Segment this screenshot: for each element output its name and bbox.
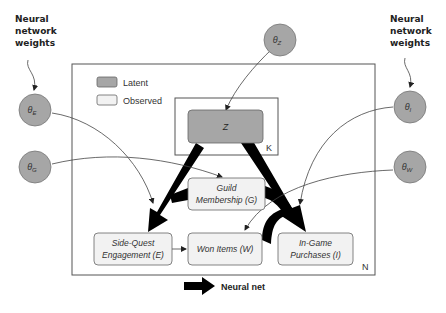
edge-thetaz-to-z — [226, 49, 272, 110]
param-theta-w: θW — [394, 151, 426, 183]
annotation-arrow-right — [405, 58, 411, 87]
annotation-left-weights: Neural network weights — [15, 14, 58, 48]
svg-text:weights: weights — [15, 38, 55, 48]
svg-text:network: network — [15, 26, 58, 36]
annotation-right-weights: Neural network weights — [390, 14, 433, 48]
svg-text:Neural: Neural — [390, 14, 424, 24]
legend-neural-net-label: Neural net — [221, 282, 265, 292]
legend-latent-swatch — [97, 77, 117, 87]
svg-text:Neural: Neural — [15, 14, 49, 24]
param-theta-i: θI — [394, 91, 426, 123]
node-in-game-label-1: In-Game — [299, 238, 332, 248]
legend-latent-label: Latent — [123, 78, 149, 88]
svg-text:weights: weights — [390, 38, 430, 48]
edge-thetag-to-g — [52, 157, 222, 177]
param-theta-e: θE — [19, 94, 51, 126]
legend-observed-label: Observed — [123, 96, 162, 106]
plate-k-label: K — [266, 143, 272, 153]
node-guild-label-1: Guild — [217, 183, 237, 193]
graphical-model-diagram: N K Latent Observed Z Guild Membership (… — [0, 0, 446, 313]
node-guild-label-2: Membership (G) — [196, 195, 258, 205]
node-side-quest-label-2: Engagement (E) — [102, 250, 164, 260]
param-theta-z: θZ — [264, 24, 296, 56]
edge-thetai-to-i — [300, 107, 393, 204]
legend-neural-net-arrow — [184, 277, 215, 295]
node-side-quest-label-1: Side-Quest — [112, 238, 155, 248]
plate-n-label: N — [362, 262, 369, 272]
node-won-items-label: Won Items (W) — [197, 244, 254, 254]
node-in-game-label-2: Purchases (I) — [290, 250, 341, 260]
node-z-label: Z — [222, 122, 229, 132]
svg-text:network: network — [390, 26, 433, 36]
param-theta-g: θG — [19, 151, 51, 183]
legend-observed-swatch — [97, 95, 117, 105]
annotation-arrow-left — [28, 60, 35, 90]
